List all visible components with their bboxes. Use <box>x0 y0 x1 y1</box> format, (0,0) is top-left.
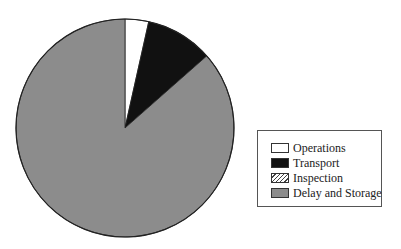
transport-swatch <box>271 158 289 168</box>
delay-storage-swatch <box>271 188 289 198</box>
chart-legend: Operations Transport Inspection Delay an… <box>257 130 382 207</box>
legend-item-operations: Operations <box>271 142 346 154</box>
legend-label: Transport <box>293 157 339 169</box>
legend-label: Operations <box>293 142 346 154</box>
legend-item-delay-and-storage: Delay and Storage <box>271 187 382 199</box>
legend-item-transport: Transport <box>271 157 339 169</box>
inspection-swatch <box>271 173 289 183</box>
operations-swatch <box>271 143 289 153</box>
legend-label: Inspection <box>293 172 343 184</box>
legend-label: Delay and Storage <box>293 187 382 199</box>
pie-chart <box>0 0 250 249</box>
legend-item-inspection: Inspection <box>271 172 343 184</box>
